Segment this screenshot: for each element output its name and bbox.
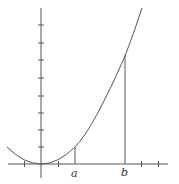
parabola-curve [7, 8, 142, 164]
parabola-diagram [0, 0, 179, 184]
label-a: a [71, 168, 78, 179]
label-b: b [121, 167, 128, 178]
